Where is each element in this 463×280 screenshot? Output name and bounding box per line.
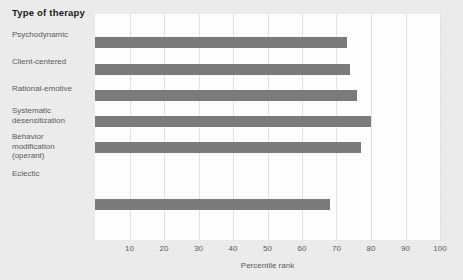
bar-rational-emotive (95, 90, 357, 101)
x-tick-label-80: 80 (367, 244, 376, 253)
x-tick-label-90: 90 (401, 244, 410, 253)
x-axis-title: Percentile rank (95, 261, 440, 270)
category-label-rational-emotive: Rational-emotive (12, 84, 96, 94)
category-axis-labels: Psychodynamic Client-centered Rational-e… (0, 14, 95, 240)
bar-eclectic (95, 199, 330, 210)
bars-layer (95, 14, 440, 240)
x-tick-label-10: 10 (125, 244, 134, 253)
x-tick-label-20: 20 (160, 244, 169, 253)
bar-systematic-desensitization (95, 116, 371, 127)
bar-client-centered (95, 64, 350, 75)
category-label-behavior-modification: Behavior modification (operant) (12, 132, 96, 161)
bar-psychodynamic (95, 37, 347, 48)
x-tick-label-40: 40 (229, 244, 238, 253)
bar-behavior-modification-operant (95, 142, 361, 153)
gridline-100 (440, 14, 441, 240)
x-tick-label-70: 70 (332, 244, 341, 253)
category-label-client-centered: Client-centered (12, 57, 96, 67)
plot-area (95, 14, 440, 240)
x-tick-label-30: 30 (194, 244, 203, 253)
category-label-eclectic: Eclectic (12, 169, 96, 179)
x-tick-label-50: 50 (263, 244, 272, 253)
x-axis-ticks: 102030405060708090100 (95, 244, 440, 256)
x-tick-label-100: 100 (433, 244, 446, 253)
x-tick-label-60: 60 (298, 244, 307, 253)
category-label-psychodynamic: Psychodynamic (12, 30, 96, 40)
chart-figure: Type of therapy Psychodynamic Client-cen… (0, 0, 463, 280)
category-label-systematic-desensitization: Systematic desensitization (12, 106, 96, 125)
